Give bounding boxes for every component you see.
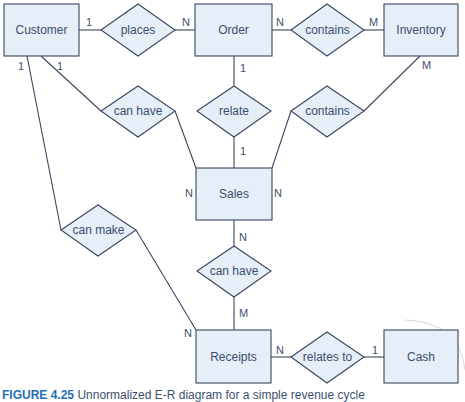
entity-sales: Sales — [196, 168, 272, 220]
relationship-label: contains — [305, 23, 350, 37]
entity-receipts: Receipts — [196, 330, 271, 383]
entity-label: Cash — [407, 350, 435, 364]
entity-inventory: Inventory — [384, 4, 458, 56]
cardinality: N — [239, 231, 247, 243]
relationship-can-make: can make — [61, 205, 136, 256]
entity-label: Order — [218, 23, 249, 37]
cardinality: 1 — [18, 60, 24, 72]
entity-label: Sales — [219, 187, 249, 201]
relationship-contains-top: contains — [291, 4, 364, 56]
figure-caption-text: Unnormalized E-R diagram for a simple re… — [77, 388, 364, 402]
cardinality: 1 — [372, 344, 378, 356]
relationship-relate: relate — [197, 86, 271, 137]
cardinality: N — [185, 187, 193, 199]
cardinality: N — [276, 16, 284, 28]
cardinality: 1 — [57, 60, 63, 72]
relationship-label: relate — [219, 104, 249, 118]
cardinality: N — [276, 344, 284, 356]
cardinality: 1 — [86, 16, 92, 28]
relationship-label: relates to — [303, 350, 353, 364]
cardinality: M — [239, 307, 248, 319]
figure-caption: FIGURE 4.25 Unnormalized E-R diagram for… — [2, 388, 365, 402]
entity-label: Inventory — [396, 23, 445, 37]
relationship-places: places — [101, 4, 175, 56]
entity-label: Receipts — [210, 350, 257, 364]
relationship-label: can have — [210, 264, 259, 278]
figure-label: FIGURE 4.25 — [2, 388, 74, 402]
cardinality: M — [369, 16, 378, 28]
cardinality: N — [274, 187, 282, 199]
entity-cash: Cash — [384, 330, 458, 383]
cardinality: N — [184, 327, 192, 339]
entity-order: Order — [195, 4, 272, 56]
relationship-can-have-mid: can have — [197, 246, 271, 297]
relationship-label: places — [121, 23, 156, 37]
relationship-contains-right: contains — [291, 86, 364, 137]
relationship-label: can have — [114, 104, 163, 118]
cardinality: M — [422, 59, 431, 71]
relationship-can-have-left: can have — [101, 86, 175, 137]
entity-customer: Customer — [4, 4, 79, 56]
relationship-label: contains — [305, 104, 350, 118]
relationship-relates-to: relates to — [291, 332, 364, 383]
cardinality: 1 — [240, 145, 246, 157]
entity-label: Customer — [15, 23, 67, 37]
cardinality: N — [182, 16, 190, 28]
cardinality: 1 — [240, 62, 246, 74]
relationship-label: can make — [72, 223, 124, 237]
